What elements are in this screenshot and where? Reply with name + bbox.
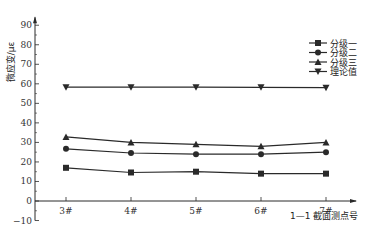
legend: 分级一分级二分级三理论值 [309, 38, 357, 78]
y-tick-label: 80 [21, 40, 33, 50]
y-tick-label: 0 [26, 196, 32, 206]
y-tick-label: 60 [21, 79, 33, 89]
y-tick-label: 90 [21, 20, 33, 30]
y-tick-label: 20 [21, 157, 33, 167]
legend-item: 分级一 [309, 38, 357, 49]
legend-item: 理论值 [309, 66, 357, 77]
x-tick-label: 4# [124, 206, 137, 216]
y-tick-label: 30 [21, 137, 33, 147]
legend-label: 分级三 [330, 57, 357, 68]
series-circle [63, 146, 329, 157]
y-axis: −100102030405060708090 [13, 16, 39, 225]
legend-label: 分级一 [330, 38, 357, 49]
y-axis-title: 微应变/με [5, 42, 16, 83]
legend-label: 理论值 [330, 66, 357, 77]
series-triangle-up [63, 133, 330, 149]
series-square [63, 165, 329, 177]
x-axis-title: 1—1 截面测点号 [290, 210, 358, 221]
x-axis-arrow-icon [350, 199, 357, 203]
line-chart: −100102030405060708090 3#4#5#6#7# 分级一分级二… [0, 0, 373, 235]
series-lines [63, 84, 330, 177]
y-tick-label: 40 [21, 118, 33, 128]
y-tick-label: 10 [21, 176, 33, 186]
legend-label: 分级二 [330, 47, 357, 58]
x-tick-label: 3# [59, 206, 72, 216]
y-axis-arrow-icon [33, 16, 37, 23]
x-tick-label: 5# [189, 206, 202, 216]
legend-item: 分级二 [309, 47, 357, 58]
y-tick-label: 50 [21, 98, 33, 108]
series-triangle-down [63, 84, 330, 91]
y-tick-label: −10 [13, 216, 32, 226]
legend-item: 分级三 [309, 57, 357, 68]
x-tick-label: 6# [254, 206, 267, 216]
y-tick-label: 70 [21, 59, 33, 69]
